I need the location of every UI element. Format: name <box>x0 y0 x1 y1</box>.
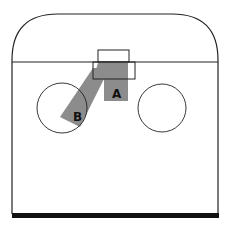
faceoff-circle-right <box>138 84 186 132</box>
blue-line-boundary <box>12 213 219 218</box>
rink-diagram: A B <box>0 0 230 226</box>
zone-b-label: B <box>73 110 82 124</box>
zone-a-label: A <box>112 87 122 101</box>
rink-boards-outline <box>12 14 218 214</box>
goal-net <box>98 50 129 62</box>
